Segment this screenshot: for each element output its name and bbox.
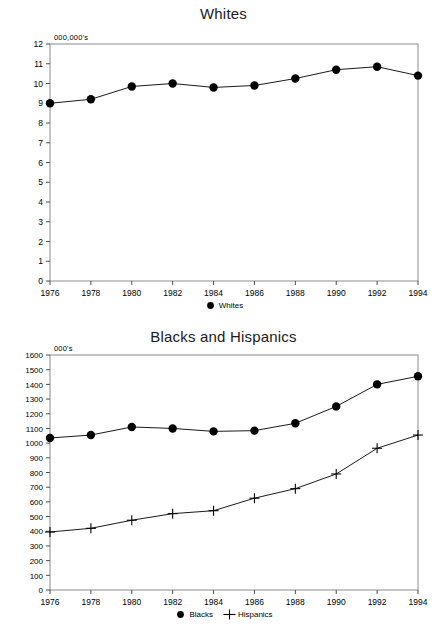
data-point-whites	[87, 95, 95, 103]
plot-area-blacks-hispanics: 0100200300400500600700800900100011001200…	[0, 318, 447, 618]
y-tick-label: 400	[30, 527, 44, 536]
x-tick-label: 1992	[368, 597, 387, 607]
x-tick-label: 1984	[204, 288, 223, 298]
legend-whites: Whites	[0, 300, 447, 311]
circle-marker-icon	[174, 609, 187, 620]
y-tick-label: 1100	[26, 425, 44, 434]
x-tick-label: 1990	[327, 597, 346, 607]
x-tick-label: 1976	[41, 288, 60, 298]
x-tick-label: 1982	[163, 597, 182, 607]
y-tick-label: 1500	[25, 366, 43, 375]
data-point-blacks	[373, 380, 381, 388]
y-tick-label: 1600	[25, 351, 43, 360]
x-tick-label: 1990	[327, 288, 346, 298]
x-tick-label: 1994	[409, 597, 428, 607]
x-tick-label: 1994	[409, 288, 428, 298]
chart-panel-blacks-hispanics: Blacks and Hispanics 000's 0100200300400…	[0, 318, 447, 637]
x-tick-label: 1980	[122, 597, 141, 607]
data-point-hispanics	[127, 515, 137, 525]
data-point-hispanics	[331, 469, 341, 479]
data-point-hispanics	[86, 523, 96, 533]
data-point-hispanics	[413, 430, 423, 440]
y-tick-label: 800	[30, 469, 44, 478]
x-tick-label: 1982	[163, 288, 182, 298]
x-tick-label: 1988	[286, 288, 305, 298]
y-tick-label: 0	[38, 276, 43, 286]
data-point-hispanics	[249, 493, 259, 503]
x-tick-label: 1986	[245, 597, 264, 607]
y-tick-label: 500	[30, 513, 44, 522]
x-tick-label: 1984	[204, 597, 223, 607]
data-point-whites	[291, 74, 299, 82]
legend-label: Whites	[219, 301, 243, 310]
data-point-blacks	[87, 431, 95, 439]
data-point-whites	[332, 65, 340, 73]
y-tick-label: 300	[30, 542, 44, 551]
x-tick-label: 1976	[41, 597, 60, 607]
y-tick-label: 200	[30, 557, 44, 566]
y-tick-label: 3	[38, 217, 43, 227]
legend-label: Blacks	[189, 610, 213, 619]
data-point-whites	[128, 82, 136, 90]
data-point-hispanics	[168, 509, 178, 519]
data-point-hispanics	[372, 443, 382, 453]
legend-blacks-hispanics: BlacksHispanics	[0, 609, 447, 620]
data-point-hispanics	[209, 506, 219, 516]
y-tick-label: 0	[39, 586, 44, 595]
y-tick-label: 7	[38, 138, 43, 148]
plot-area-whites: 0123456789101112197619781980198219841986…	[0, 0, 447, 300]
series-line-hispanics	[50, 435, 418, 532]
y-tick-label: 1	[38, 256, 43, 266]
y-tick-label: 6	[38, 158, 43, 168]
series-line-blacks	[50, 376, 418, 438]
y-tick-label: 5	[38, 177, 43, 187]
legend-entry-hispanics: Hispanics	[223, 609, 273, 620]
data-point-whites	[46, 99, 54, 107]
data-point-whites	[250, 81, 258, 89]
y-tick-label: 12	[34, 39, 44, 49]
chart-panel-whites: Whites 000,000's 01234567891011121976197…	[0, 0, 447, 318]
data-point-blacks	[414, 372, 422, 380]
data-point-blacks	[250, 426, 258, 434]
x-tick-label: 1978	[81, 288, 100, 298]
y-tick-label: 4	[38, 197, 43, 207]
plot-frame	[50, 355, 418, 590]
x-tick-label: 1988	[286, 597, 305, 607]
y-tick-label: 1200	[25, 410, 43, 419]
y-tick-label: 11	[34, 59, 43, 69]
legend-entry-blacks: Blacks	[174, 609, 213, 620]
data-point-whites	[168, 79, 176, 87]
y-tick-label: 1300	[25, 395, 43, 404]
data-point-hispanics	[290, 484, 300, 494]
data-point-whites	[414, 71, 422, 79]
y-tick-label: 700	[30, 483, 44, 492]
y-tick-label: 8	[38, 118, 43, 128]
x-tick-label: 1980	[122, 288, 141, 298]
y-tick-label: 1000	[25, 439, 43, 448]
y-tick-label: 100	[30, 572, 44, 581]
series-line-whites	[50, 67, 418, 104]
data-point-blacks	[291, 419, 299, 427]
data-point-hispanics	[45, 527, 55, 537]
data-point-whites	[209, 83, 217, 91]
data-point-blacks	[168, 424, 176, 432]
data-point-blacks	[209, 427, 217, 435]
data-point-blacks	[46, 434, 54, 442]
x-tick-label: 1992	[368, 288, 387, 298]
y-tick-label: 1400	[25, 381, 43, 390]
legend-label: Hispanics	[238, 610, 273, 619]
circle-marker-icon	[204, 300, 217, 311]
plus-marker-icon	[223, 609, 236, 620]
data-point-whites	[373, 63, 381, 71]
y-tick-label: 600	[30, 498, 44, 507]
x-tick-label: 1978	[81, 597, 100, 607]
y-tick-label: 10	[34, 79, 44, 89]
data-point-blacks	[332, 402, 340, 410]
y-tick-label: 9	[38, 98, 43, 108]
y-tick-label: 900	[30, 454, 44, 463]
legend-entry-whites: Whites	[204, 300, 243, 311]
x-tick-label: 1986	[245, 288, 264, 298]
plot-frame	[50, 44, 418, 281]
y-tick-label: 2	[38, 237, 43, 247]
data-point-blacks	[128, 423, 136, 431]
